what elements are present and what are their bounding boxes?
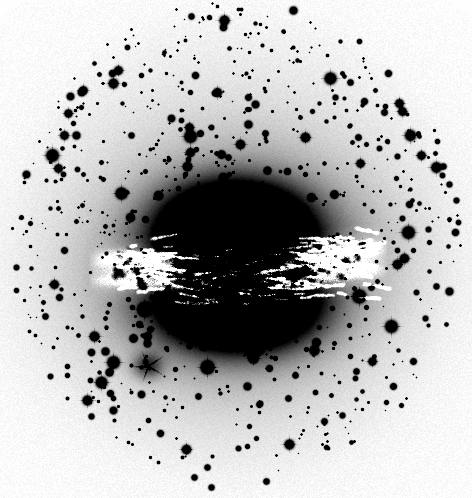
galaxy-plate-image (0, 0, 472, 498)
astronomical-plate-viewer: Negative grayscale photographic plate of… (0, 0, 472, 498)
